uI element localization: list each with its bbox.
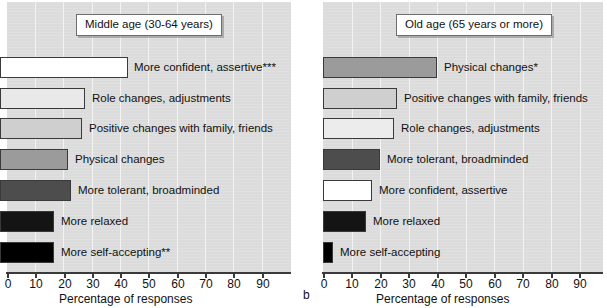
panel-letter-b: b bbox=[303, 288, 310, 302]
bar-more-self-accepting bbox=[323, 242, 333, 263]
x-tick-label: 40 bbox=[426, 277, 450, 291]
bar-label: More confident, assertive bbox=[379, 183, 507, 198]
figure-bar-chart-pair: Middle age (30-64 years) More confident,… bbox=[0, 0, 607, 308]
bar-more-confident-assertive bbox=[323, 180, 372, 201]
panel-title-a: Middle age (30-64 years) bbox=[76, 14, 222, 36]
panel-title-b: Old age (65 years or more) bbox=[396, 14, 552, 36]
bar-label: More tolerant, broadminded bbox=[387, 152, 528, 167]
x-tick-label: 30 bbox=[397, 277, 421, 291]
x-tick-label: 30 bbox=[81, 277, 105, 291]
x-tick-label: 0 bbox=[312, 277, 336, 291]
x-axis-title-b: Percentage of responses bbox=[376, 292, 509, 307]
x-tick-label: 90 bbox=[568, 277, 592, 291]
bar-positive-changes-family-friends bbox=[323, 88, 397, 109]
x-tick-label: 80 bbox=[222, 277, 246, 291]
x-tick-label: 50 bbox=[454, 277, 478, 291]
x-tick-label: 80 bbox=[540, 277, 564, 291]
bar-positive-changes-family-friends bbox=[0, 118, 82, 139]
x-tick-label: 10 bbox=[340, 277, 364, 291]
bar-label: Positive changes with family, friends bbox=[404, 91, 588, 106]
bar-label: More self-accepting bbox=[340, 245, 440, 260]
bar-label: More confident, assertive*** bbox=[134, 60, 276, 75]
bar-more-relaxed bbox=[323, 211, 366, 232]
gridline bbox=[177, 2, 178, 274]
gridline bbox=[205, 2, 206, 274]
bar-label: Role changes, adjustments bbox=[92, 91, 231, 106]
bar-label: Physical changes* bbox=[444, 60, 538, 75]
panel-old-age: Old age (65 years or more) Physical chan… bbox=[312, 0, 607, 308]
x-tick-label: 10 bbox=[24, 277, 48, 291]
bar-more-self-accepting bbox=[0, 242, 54, 263]
x-tick-label: 40 bbox=[109, 277, 133, 291]
gridline bbox=[494, 2, 495, 274]
bar-label: More tolerant, broadminded bbox=[78, 183, 219, 198]
x-tick-label: 50 bbox=[137, 277, 161, 291]
gridline bbox=[437, 2, 438, 274]
x-tick-label: 90 bbox=[251, 277, 275, 291]
gridline bbox=[466, 2, 467, 274]
x-tick-label: 70 bbox=[194, 277, 218, 291]
bar-role-changes-adjustments bbox=[0, 88, 85, 109]
bar-label: Role changes, adjustments bbox=[401, 121, 540, 136]
x-axis-title-a: Percentage of responses bbox=[59, 292, 192, 307]
bar-role-changes-adjustments bbox=[323, 118, 394, 139]
bar-physical-changes bbox=[0, 149, 68, 170]
gridline bbox=[262, 2, 263, 274]
x-axis-line-b bbox=[322, 272, 603, 274]
bar-more-confident-assertive bbox=[0, 57, 128, 78]
bar-label: More relaxed bbox=[373, 214, 440, 229]
bar-more-tolerant-broadminded bbox=[323, 149, 380, 170]
bar-label: Physical changes bbox=[75, 152, 165, 167]
x-tick-label: 70 bbox=[511, 277, 535, 291]
x-tick-label: 60 bbox=[483, 277, 507, 291]
x-tick-label: 0 bbox=[0, 277, 20, 291]
gridline bbox=[92, 2, 93, 274]
bar-label: More relaxed bbox=[61, 214, 128, 229]
x-tick-label: 60 bbox=[166, 277, 190, 291]
bar-label: Positive changes with family, friends bbox=[89, 121, 273, 136]
gridline bbox=[409, 2, 410, 274]
gridline bbox=[120, 2, 121, 274]
gridline bbox=[148, 2, 149, 274]
x-tick-label: 20 bbox=[53, 277, 77, 291]
bar-more-tolerant-broadminded bbox=[0, 180, 71, 201]
panel-middle-age: Middle age (30-64 years) More confident,… bbox=[0, 0, 300, 308]
bar-label: More self-accepting** bbox=[61, 245, 170, 260]
gridline bbox=[523, 2, 524, 274]
bar-more-relaxed bbox=[0, 211, 54, 232]
gridline bbox=[580, 2, 581, 274]
x-tick-label: 20 bbox=[369, 277, 393, 291]
bar-physical-changes bbox=[323, 57, 437, 78]
gridline bbox=[551, 2, 552, 274]
gridline bbox=[233, 2, 234, 274]
